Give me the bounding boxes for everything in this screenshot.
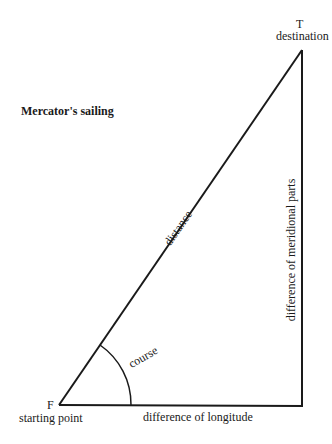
longitude-line [59,405,303,406]
triangle-diagram [0,0,332,444]
destination-label: destination [276,30,329,42]
course-angle-arc [100,345,131,405]
base-label: difference of longitude [143,411,253,423]
start-label: starting point [19,412,83,424]
start-letter: F [47,399,54,411]
meridional-label: difference of meridional parts [285,179,297,322]
